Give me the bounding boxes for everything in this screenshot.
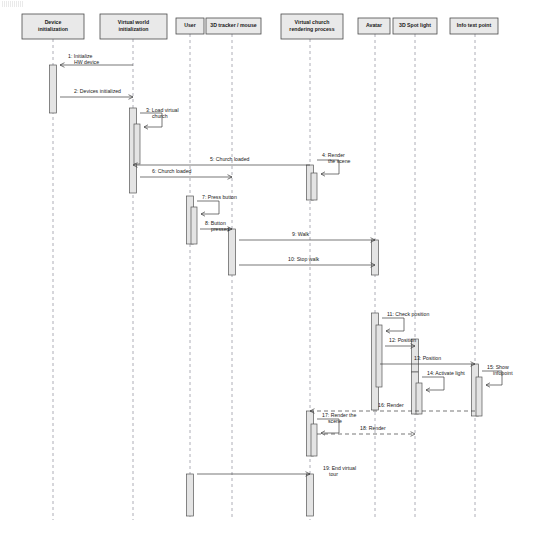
message-label: 18: Render	[360, 425, 386, 431]
message-label: 6: Church loaded	[152, 168, 192, 174]
message-17-17-render-the-scene: 17: Render thescene	[317, 412, 356, 435]
lifeline-header-info-text-point[interactable]: Info text point	[450, 18, 498, 34]
lifeline-headers-layer: DeviceinitializationVirtual worldinitial…	[22, 14, 498, 39]
message-label: 9: Walk	[292, 231, 310, 237]
message-8-8-button-pressed: 8: Buttonpressed	[200, 220, 232, 232]
activation-bar-avatar	[376, 325, 382, 387]
lifeline-header-device-initialization[interactable]: Deviceinitialization	[22, 14, 84, 39]
lifeline-header-label: 3D tracker / mouse	[210, 22, 257, 28]
message-3-3-load-virtual-church: 3: Load virtualchurch	[140, 107, 179, 129]
message-label: 10: Stop walk	[288, 256, 320, 262]
message-14-14-activate-light: 14: Activate light	[422, 370, 465, 392]
message-label: 19: End virtualtour	[323, 465, 356, 477]
message-label: 5: Church loaded	[210, 156, 250, 162]
lifeline-header-label: Avatar	[366, 22, 382, 28]
activation-bar-virtual-church-rendering-process	[311, 424, 317, 456]
activation-bar-virtual-world-initialization	[134, 124, 140, 164]
message-5-5-church-loaded: 5: Church loaded	[133, 156, 310, 167]
message-label: 16: Render	[378, 402, 404, 408]
message-label: 13: Position	[414, 355, 441, 361]
message-label: 14: Activate light	[427, 370, 465, 376]
lifeline-header-user[interactable]: User	[176, 18, 204, 34]
message-1-1-initialize-hw-device: 1: InitializeHW device	[60, 53, 133, 67]
activation-bar-device-initialization	[50, 65, 57, 113]
activation-bar-tracker-mouse	[229, 229, 236, 275]
message-10-10-stop-walk: 10: Stop walk	[239, 256, 375, 267]
message-label: 12: Position	[389, 337, 416, 343]
lifeline-header-label: Virtual worldinitialization	[118, 20, 149, 32]
message-label: 1: InitializeHW device	[68, 53, 99, 65]
message-15-15-show-infopoint: 15: Showinfopoint	[482, 364, 513, 387]
message-path	[382, 318, 404, 331]
message-11-11-check-position: 11: Check position	[382, 311, 429, 333]
lifeline-header-avatar[interactable]: Avatar	[358, 18, 390, 34]
lifelines-layer	[53, 34, 475, 520]
message-9-9-walk: 9: Walk	[239, 231, 375, 242]
message-path	[197, 201, 219, 214]
activation-bar-info-text-point	[476, 377, 482, 416]
message-label: 11: Check position	[387, 311, 429, 317]
activation-bar-virtual-church-rendering-process	[307, 474, 314, 516]
sequence-diagram-canvas: 1: InitializeHW device2: Devices initial…	[0, 0, 536, 543]
lifeline-header-virtual-church-rendering-process[interactable]: Virtual churchrendering process	[281, 14, 343, 39]
lifeline-header-label: 3D Spot light	[399, 22, 431, 28]
lifeline-header-label: Info text point	[457, 22, 492, 28]
activation-bar-user	[187, 474, 194, 516]
message-path	[422, 377, 444, 390]
activation-bar-spot-light	[416, 383, 422, 414]
lifeline-header-label: Virtual churchrendering process	[289, 20, 334, 32]
message-label: 4: Renderthe scene	[322, 152, 351, 164]
message-18-18-render: 18: Render	[317, 425, 415, 436]
message-2-2-devices-initialized: 2: Devices initialized	[60, 88, 133, 99]
message-19-19-end-virtual-tour: 19: End virtualtour	[197, 465, 356, 477]
message-13-13-position: 13: Position	[380, 355, 475, 366]
messages-layer: 1: InitializeHW device2: Devices initial…	[60, 53, 513, 477]
activations-layer	[50, 65, 483, 516]
message-4-4-render-the-scene: 4: Renderthe scene	[317, 152, 351, 176]
message-label: 17: Render thescene	[322, 412, 356, 424]
activation-bar-virtual-church-rendering-process	[311, 173, 317, 200]
message-7-7-press-button: 7: Press button	[197, 194, 237, 216]
activation-bar-avatar	[372, 240, 379, 275]
sequence-diagram-svg: 1: InitializeHW device2: Devices initial…	[0, 0, 536, 543]
message-label: 8: Buttonpressed	[205, 220, 230, 232]
message-label: 7: Press button	[202, 194, 237, 200]
lifeline-header-label: User	[184, 22, 196, 28]
lifeline-header-spot-light[interactable]: 3D Spot light	[393, 18, 437, 34]
activation-bar-user	[191, 207, 197, 244]
lifeline-header-tracker-mouse[interactable]: 3D tracker / mouse	[206, 18, 261, 34]
message-label: 15: Showinfopoint	[487, 364, 513, 376]
message-6-6-church-loaded: 6: Church loaded	[140, 168, 232, 179]
lifeline-header-virtual-world-initialization[interactable]: Virtual worldinitialization	[100, 14, 167, 39]
message-label: 2: Devices initialized	[74, 88, 121, 94]
